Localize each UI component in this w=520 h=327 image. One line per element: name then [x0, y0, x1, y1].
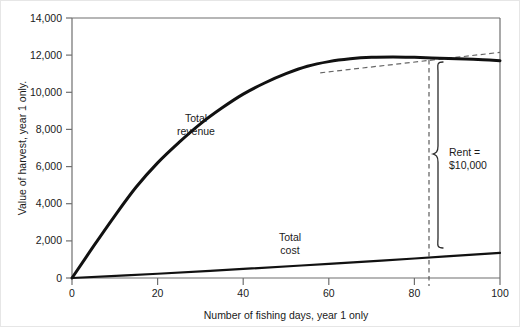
x-tick-label-60: 60: [323, 287, 335, 299]
y-tick-label-14000: 14,000: [30, 12, 62, 24]
total-cost-label-line2: cost: [280, 244, 299, 256]
y-tick-label-12000: 12,000: [30, 49, 62, 61]
chart-container: 0 2,000 4,000 6,000 8,000 10,000 12,000 …: [0, 0, 520, 327]
x-axis-title: Number of fishing days, year 1 only: [204, 309, 369, 321]
y-tick-label-8000: 8,000: [36, 123, 62, 135]
total-cost-label: Total cost: [279, 231, 301, 256]
y-tick-label-2000: 2,000: [36, 234, 62, 246]
x-tick-label-20: 20: [152, 287, 164, 299]
total-revenue-label-line1: Total: [185, 112, 207, 124]
y-tick-label-6000: 6,000: [36, 160, 62, 172]
x-tick-label-0: 0: [69, 287, 75, 299]
x-tick-label-80: 80: [409, 287, 421, 299]
y-axis-title: Value of harvest, year 1 only.: [16, 81, 28, 215]
x-tick-label-40: 40: [237, 287, 249, 299]
rent-annotation-line1: Rent =: [449, 146, 480, 158]
total-cost-label-line1: Total: [279, 231, 301, 243]
total-revenue-label-line2: revenue: [177, 125, 215, 137]
y-tick-label-10000: 10,000: [30, 86, 62, 98]
y-tick-label-4000: 4,000: [36, 197, 62, 209]
y-tick-label-0: 0: [56, 272, 62, 284]
fishery-revenue-cost-chart: 0 2,000 4,000 6,000 8,000 10,000 12,000 …: [0, 0, 520, 327]
x-tick-label-100: 100: [491, 287, 509, 299]
rent-annotation-line2: $10,000: [449, 159, 487, 171]
